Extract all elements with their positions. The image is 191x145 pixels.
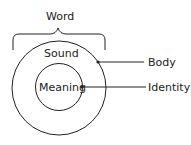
body-label: Body: [148, 57, 176, 68]
word-diagram: Word Sound Meaning Body Identity: [0, 0, 191, 145]
identity-label: Identity: [148, 82, 190, 93]
sound-label: Sound: [44, 48, 79, 59]
diagram-shapes: [0, 0, 191, 145]
word-label: Word: [46, 11, 74, 22]
meaning-label: Meaning: [39, 82, 86, 93]
